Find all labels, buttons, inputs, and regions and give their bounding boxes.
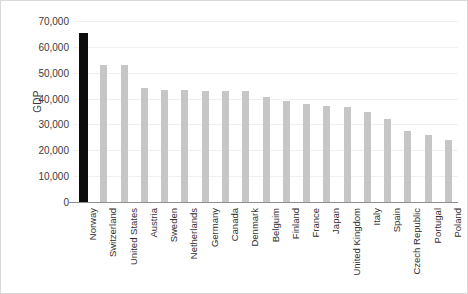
- bar[interactable]: [141, 88, 148, 202]
- x-label-slot: United Kingdom: [337, 204, 357, 292]
- x-label-slot: Netherlands: [174, 204, 194, 292]
- bar[interactable]: [445, 140, 452, 202]
- bar-slot[interactable]: [215, 21, 235, 202]
- bar-slot[interactable]: [418, 21, 438, 202]
- bar-slot[interactable]: [296, 21, 316, 202]
- bar[interactable]: [404, 131, 411, 202]
- y-tick-label: 70,000: [5, 16, 69, 27]
- x-axis-line: [73, 202, 458, 203]
- x-label-slot: Japan: [316, 204, 336, 292]
- bar-slot[interactable]: [174, 21, 194, 202]
- bar[interactable]: [303, 104, 310, 202]
- bar-slot[interactable]: [397, 21, 417, 202]
- y-tick-label: 30,000: [5, 119, 69, 130]
- bar[interactable]: [222, 91, 229, 202]
- x-label-slot: Finland: [276, 204, 296, 292]
- y-tick-label: 50,000: [5, 67, 69, 78]
- bar[interactable]: [161, 90, 168, 202]
- bar-slot[interactable]: [337, 21, 357, 202]
- x-label-slot: Italy: [357, 204, 377, 292]
- x-label-slot: France: [296, 204, 316, 292]
- x-label-slot: Austria: [134, 204, 154, 292]
- bar[interactable]: [242, 91, 249, 202]
- y-axis-ticks: 010,00020,00030,00040,00050,00060,00070,…: [1, 21, 69, 202]
- x-label-slot: Switzerland: [93, 204, 113, 292]
- bar[interactable]: [181, 90, 188, 202]
- bar-slot[interactable]: [134, 21, 154, 202]
- bar-slot[interactable]: [195, 21, 215, 202]
- bar[interactable]: [344, 107, 351, 202]
- bar-slot[interactable]: [114, 21, 134, 202]
- bar[interactable]: [100, 65, 107, 202]
- x-label-slot: Norway: [73, 204, 93, 292]
- bar-slot[interactable]: [235, 21, 255, 202]
- y-tick-label: 60,000: [5, 41, 69, 52]
- bar-slot[interactable]: [256, 21, 276, 202]
- bar-slot[interactable]: [93, 21, 113, 202]
- x-tick-label: Poland: [452, 208, 463, 238]
- bar[interactable]: [263, 97, 270, 202]
- bar-slot[interactable]: [438, 21, 458, 202]
- x-axis-labels: NorwaySwitzerlandUnited StatesAustriaSwe…: [73, 204, 458, 294]
- bar-slot[interactable]: [357, 21, 377, 202]
- x-label-slot: Poland: [438, 204, 458, 292]
- bar[interactable]: [283, 101, 290, 202]
- x-label-slot: Canada: [215, 204, 235, 292]
- x-label-slot: Portugal: [418, 204, 438, 292]
- y-tick-label: 20,000: [5, 145, 69, 156]
- x-label-slot: Spain: [377, 204, 397, 292]
- bar-slot[interactable]: [316, 21, 336, 202]
- x-label-slot: Germany: [195, 204, 215, 292]
- x-label-slot: Belguim: [256, 204, 276, 292]
- bar[interactable]: [323, 106, 330, 202]
- plot-area: [73, 21, 458, 202]
- y-tick-label: 40,000: [5, 93, 69, 104]
- bar[interactable]: [364, 112, 371, 203]
- bar[interactable]: [425, 135, 432, 202]
- x-label-slot: Sweden: [154, 204, 174, 292]
- bar-slot[interactable]: [276, 21, 296, 202]
- bar[interactable]: [121, 65, 128, 202]
- y-tick-label: 0: [5, 197, 69, 208]
- gdp-bar-chart: GDP 010,00020,00030,00040,00050,00060,00…: [0, 0, 468, 294]
- bar-slot[interactable]: [73, 21, 93, 202]
- bar[interactable]: [79, 33, 88, 202]
- bar-slot[interactable]: [377, 21, 397, 202]
- y-tick-label: 10,000: [5, 171, 69, 182]
- bar[interactable]: [384, 119, 391, 202]
- x-label-slot: United States: [114, 204, 134, 292]
- bar[interactable]: [202, 91, 209, 202]
- bar-slot[interactable]: [154, 21, 174, 202]
- x-label-slot: Czech Republic: [397, 204, 417, 292]
- x-label-slot: Denmark: [235, 204, 255, 292]
